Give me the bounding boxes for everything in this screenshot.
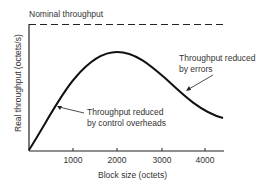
errors-arrow: [189, 75, 213, 89]
nominal-throughput-label: Nominal throughput: [29, 9, 103, 19]
overheads-arrow: [59, 107, 84, 113]
y-axis-label: Real throughput (octets/s): [13, 34, 23, 132]
x-axis-label: Block size (octets): [98, 170, 167, 180]
chart-plot: [0, 0, 268, 189]
overheads-label-line1: Throughput reduced: [87, 107, 164, 117]
x-tick-2000: 2000: [108, 155, 127, 165]
errors-label-line2: by errors: [179, 64, 213, 74]
x-tick-1000: 1000: [64, 155, 83, 165]
errors-label-line1: Throughput reduced: [179, 53, 256, 63]
overheads-label-line2: by control overheads: [87, 118, 166, 128]
x-tick-3000: 3000: [153, 155, 172, 165]
x-tick-4000: 4000: [196, 155, 215, 165]
